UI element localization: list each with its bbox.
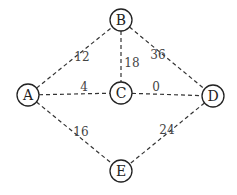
edge-weight-label: 0 (152, 80, 160, 94)
edge-weight-label: 4 (80, 80, 88, 94)
edge-c-d (132, 93, 202, 95)
node-label: C (116, 85, 127, 101)
node-b: B (110, 9, 132, 31)
edge-a-c (39, 93, 110, 95)
edge-weight-label: 12 (74, 50, 89, 64)
node-d: D (202, 85, 224, 107)
node-label: E (116, 163, 126, 179)
edge-weight-label: 16 (73, 125, 88, 139)
edge-weight-label: 24 (159, 123, 175, 137)
node-label: D (207, 88, 218, 104)
graph-svg: 121836401624ABCDE (0, 0, 237, 195)
edge-weight-label: 18 (124, 56, 139, 70)
node-a: A (17, 84, 39, 106)
node-label: A (22, 87, 34, 103)
node-e: E (110, 160, 132, 182)
node-c: C (110, 82, 132, 104)
edge-weight-label: 36 (150, 48, 165, 62)
node-label: B (116, 12, 126, 28)
edge-b-d (129, 27, 204, 89)
graph-diagram: 121836401624ABCDE (0, 0, 237, 195)
